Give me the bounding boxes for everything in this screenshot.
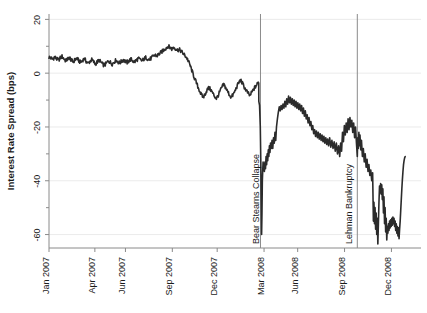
interest-rate-spread-line-chart: Interest Rate Spread (bps) 200-20-40-60 … <box>0 0 427 313</box>
y-tick-label: -20 <box>32 121 42 134</box>
x-axis-tick-labels: Jan 2007Apr 2007Jun 2007Sep 2007Dec 2007… <box>41 257 393 296</box>
x-tick-label: Apr 2007 <box>87 257 97 294</box>
x-tick-label: Sep 2007 <box>164 257 174 296</box>
x-tick-label: Sep 2008 <box>337 257 347 296</box>
y-tick-label: -40 <box>32 175 42 188</box>
x-tick-label: Dec 2007 <box>209 257 219 296</box>
x-tick-label: Mar 2008 <box>256 257 266 295</box>
y-tick-label: 0 <box>32 71 42 76</box>
annotation-bear-stearns-collapse: Bear Stearns Collapse <box>251 154 261 244</box>
x-tick-label: Dec 2008 <box>383 257 393 296</box>
x-tick-label: Jun 2008 <box>290 257 300 294</box>
y-tick-label: -60 <box>32 229 42 242</box>
x-tick-label: Jan 2007 <box>41 257 51 294</box>
y-axis-title: Interest Rate Spread (bps) <box>5 72 16 190</box>
annotation-lehman-bankruptcy: Lehman Bankruptcy <box>344 163 354 244</box>
x-tick-label: Jun 2007 <box>117 257 127 294</box>
chart-figure: Interest Rate Spread (bps) 200-20-40-60 … <box>0 0 427 313</box>
y-tick-label: 20 <box>32 15 42 25</box>
